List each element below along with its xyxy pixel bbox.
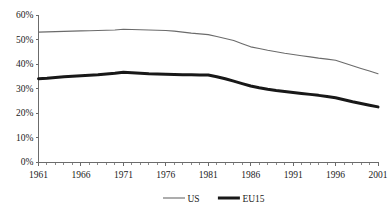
y-tick-label: 10%	[16, 133, 34, 143]
x-tick-label: 1966	[71, 170, 90, 180]
y-tick-label: 60%	[16, 10, 34, 20]
series-line-us	[39, 29, 379, 74]
x-tick-label: 1961	[29, 170, 48, 180]
line-chart: 0%10%20%30%40%50%60% 1961196619711976198…	[0, 0, 388, 213]
x-tick-label: 1986	[241, 170, 260, 180]
y-tick-label: 50%	[16, 35, 34, 45]
x-tick-label: 1991	[284, 170, 303, 180]
y-tick-label: 30%	[16, 84, 34, 94]
x-tick-label: 1996	[326, 170, 345, 180]
chart-legend: USEU15	[163, 194, 265, 204]
series-lines	[39, 29, 379, 107]
chart-canvas: 0%10%20%30%40%50%60% 1961196619711976198…	[0, 0, 388, 213]
x-tick-label: 1981	[199, 170, 218, 180]
x-tick-label: 1971	[114, 170, 133, 180]
legend-label-eu15: EU15	[242, 194, 264, 204]
series-line-eu15	[39, 72, 379, 107]
x-axis-tick-labels: 196119661971197619811986199119962001	[29, 170, 388, 180]
y-tick-label: 40%	[16, 59, 34, 69]
legend-label-us: US	[188, 194, 200, 204]
x-tick-label: 2001	[369, 170, 388, 180]
y-tick-label: 20%	[16, 108, 34, 118]
y-tick-label: 0%	[21, 157, 34, 167]
x-tick-label: 1976	[156, 170, 175, 180]
y-axis-tick-labels: 0%10%20%30%40%50%60%	[16, 10, 34, 167]
